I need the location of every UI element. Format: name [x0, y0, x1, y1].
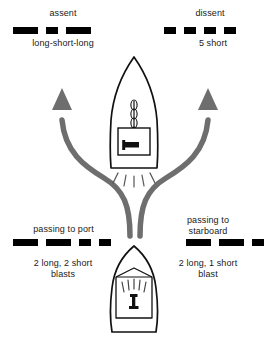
port-arrow-head — [52, 88, 72, 110]
upper-boat-bow-view — [110, 57, 158, 187]
lower-boat-stern-view — [111, 246, 158, 332]
diagram-artwork — [0, 0, 266, 350]
lower-boat-cabin — [116, 268, 152, 318]
starboard-arrow-head — [198, 88, 218, 110]
diagram-canvas: assent long-short-long dissent 5 short p… — [0, 0, 266, 350]
upper-boat-sound-lines — [113, 173, 155, 187]
